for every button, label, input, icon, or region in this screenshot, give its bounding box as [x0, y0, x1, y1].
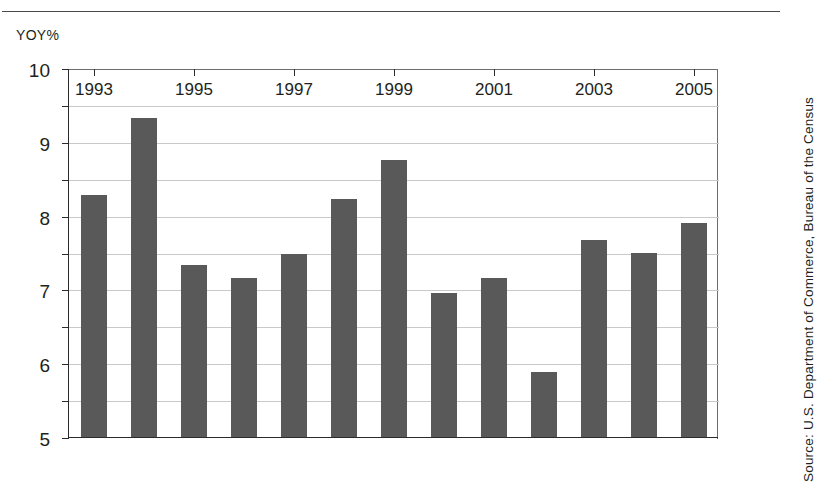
bar: [281, 254, 307, 437]
bar: [131, 118, 157, 437]
x-axis-tick: [294, 69, 295, 76]
x-axis-tick: [394, 69, 395, 76]
y-axis-tick-label: 9: [39, 134, 50, 153]
bar: [681, 223, 707, 437]
bar: [431, 293, 457, 437]
x-axis-tick: [194, 69, 195, 76]
bar: [81, 195, 107, 437]
bar: [231, 278, 257, 437]
x-axis-tick-label: 1999: [375, 81, 413, 98]
bar: [481, 278, 507, 437]
x-axis-tick-label: 1993: [75, 81, 113, 98]
y-axis-tick-label: 5: [39, 430, 50, 449]
bar: [331, 199, 357, 437]
bar: [581, 240, 607, 437]
x-axis-tick: [694, 69, 695, 76]
y-axis-tick-label: 8: [39, 208, 50, 227]
y-axis-tick: 4: [62, 290, 69, 291]
x-axis-tick-label: 1997: [275, 81, 313, 98]
y-axis-tick: 9: [62, 106, 69, 107]
bar: [381, 160, 407, 437]
y-axis-tick: 1: [62, 401, 69, 402]
plot-area: 012345678910 199319951997199920012003200…: [68, 69, 718, 438]
source-note-text: Source: U.S. Department of Commerce, Bur…: [801, 97, 816, 482]
x-axis-tick: [594, 69, 595, 76]
y-axis-tick: 3: [62, 327, 69, 328]
bar: [631, 253, 657, 438]
x-axis-tick-label: 2003: [575, 81, 613, 98]
y-axis-tick: 5: [62, 254, 69, 255]
y-axis-tick: 7: [62, 180, 69, 181]
x-axis-tick: [94, 69, 95, 76]
y-axis-tick: 0: [62, 438, 69, 439]
bar: [531, 372, 557, 437]
x-axis-tick-label: 2005: [675, 81, 713, 98]
y-axis-tick-label: 7: [39, 282, 50, 301]
y-axis-tick-label: 10: [29, 61, 50, 80]
source-note: Source: U.S. Department of Commerce, Bur…: [802, 62, 822, 482]
y-axis-tick: 6: [62, 217, 69, 218]
gridline: [69, 106, 719, 107]
x-axis-tick: [494, 69, 495, 76]
bar: [181, 265, 207, 437]
y-axis-tick: 8: [62, 143, 69, 144]
y-axis-tick: 10: [62, 69, 69, 70]
chart-figure: 012345678910 199319951997199920012003200…: [0, 0, 790, 491]
x-axis-tick-label: 2001: [475, 81, 513, 98]
y-axis-tick: 2: [62, 364, 69, 365]
x-axis-tick-label: 1995: [175, 81, 213, 98]
y-axis-tick-label: 6: [39, 356, 50, 375]
gridline: [69, 143, 719, 144]
